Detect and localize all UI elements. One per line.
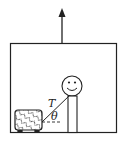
acceleration-arrow: [59, 8, 66, 43]
suitcase: [15, 110, 42, 132]
person: [62, 76, 82, 133]
tension-label: T: [48, 97, 57, 110]
angle-label: θ: [51, 110, 58, 123]
person-head: [62, 76, 82, 96]
person-body: [68, 96, 77, 133]
elevator-diagram: T θ: [0, 0, 125, 142]
